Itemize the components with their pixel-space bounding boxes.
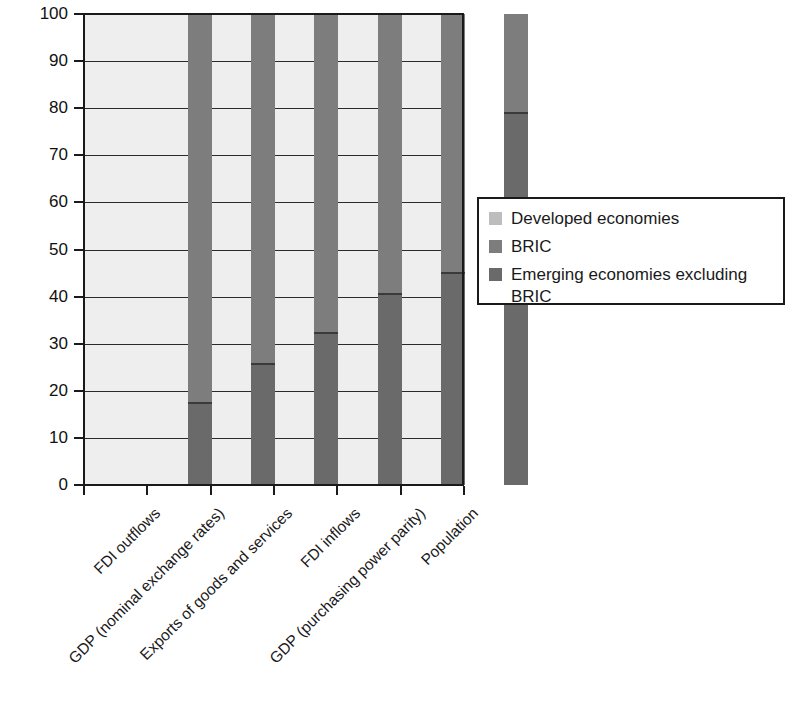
bar-segment-emerging	[251, 363, 275, 485]
legend-item-emerging-economies[interactable]: Emerging economies excluding BRIC	[489, 264, 773, 308]
legend-label-developed-economies: Developed economies	[511, 208, 679, 230]
x-axis-tick	[463, 486, 465, 495]
y-axis-tick	[74, 390, 83, 392]
y-axis-tick	[74, 107, 83, 109]
y-axis-tick-label: 100	[40, 5, 68, 22]
x-axis-label-gdp-purchasing-power-parity: GDP (purchasing power parity)	[267, 505, 429, 667]
bar-segment-bric	[188, 14, 212, 402]
y-axis-tick-label: 40	[49, 288, 68, 305]
gridline	[85, 250, 465, 251]
y-axis-tick	[74, 154, 83, 156]
bar-segment-emerging	[378, 293, 402, 485]
gridline	[85, 202, 465, 203]
gridline	[85, 155, 465, 156]
x-axis-label-population: Population	[418, 505, 481, 568]
bar-fdi-outflows[interactable]	[188, 14, 212, 485]
bar-gdp-nominal-exchange-rates[interactable]	[251, 14, 275, 485]
plot-area	[83, 14, 463, 485]
y-axis-tick-label: 90	[49, 52, 68, 69]
legend-item-bric[interactable]: BRIC	[489, 236, 773, 258]
y-axis-tick-label: 20	[49, 382, 68, 399]
y-axis-tick-label: 70	[49, 146, 68, 163]
chart-container: 0102030405060708090100 FDI outflowsGDP (…	[0, 0, 797, 701]
y-axis-tick	[74, 13, 83, 15]
x-axis-label-exports-of-goods-and-services: Exports of goods and services	[137, 505, 295, 663]
y-axis-tick	[74, 201, 83, 203]
bar-exports-of-goods-and-services[interactable]	[314, 14, 338, 485]
x-axis-tick	[146, 486, 148, 495]
plot-right-border	[462, 13, 464, 486]
legend-label-emerging-economies: Emerging economies excluding BRIC	[511, 264, 747, 308]
x-axis-label-fdi-outflows: FDI outflows	[91, 505, 163, 577]
x-axis-tick	[210, 486, 212, 495]
bar-segment-bric	[504, 14, 528, 112]
chart-legend: Developed economies BRIC Emerging econom…	[477, 197, 785, 305]
legend-item-developed-economies[interactable]: Developed economies	[489, 208, 773, 230]
gridline	[85, 61, 465, 62]
y-axis-tick	[74, 484, 83, 486]
y-axis-tick	[74, 343, 83, 345]
gridline	[85, 108, 465, 109]
x-axis-tick	[336, 486, 338, 495]
y-axis-tick	[74, 60, 83, 62]
legend-swatch-emerging-economies	[489, 268, 502, 281]
y-axis-tick	[74, 437, 83, 439]
x-axis-label-fdi-inflows: FDI inflows	[298, 505, 364, 571]
bar-segment-emerging	[188, 402, 212, 485]
y-axis-tick-label: 60	[49, 193, 68, 210]
x-axis-tick	[273, 486, 275, 495]
gridline	[85, 297, 465, 298]
y-axis-tick	[74, 249, 83, 251]
legend-swatch-developed-economies	[489, 212, 502, 225]
x-axis-tick	[83, 486, 85, 495]
bar-segment-bric	[251, 14, 275, 363]
x-axis-label-gdp-nominal-exchange-rates: GDP (nominal exchange rates)	[66, 505, 228, 667]
y-axis-tick-label: 50	[49, 241, 68, 258]
legend-label-line-1: Emerging economies excluding	[511, 265, 747, 284]
x-axis-tick	[400, 486, 402, 495]
plot-top-border	[83, 13, 464, 15]
legend-swatch-bric	[489, 240, 502, 253]
gridline	[85, 391, 465, 392]
legend-label-bric: BRIC	[511, 236, 552, 258]
legend-label-line-2: BRIC	[511, 286, 747, 308]
y-axis-tick-label: 30	[49, 335, 68, 352]
gridline	[85, 344, 465, 345]
y-axis-tick-label: 10	[49, 429, 68, 446]
gridline	[85, 438, 465, 439]
y-axis-tick-label: 80	[49, 99, 68, 116]
y-axis-tick	[74, 296, 83, 298]
bar-segment-bric	[378, 14, 402, 293]
bar-segment-bric	[314, 14, 338, 332]
bar-segment-emerging	[314, 332, 338, 485]
bar-fdi-inflows[interactable]	[378, 14, 402, 485]
y-axis-tick-label: 0	[59, 476, 68, 493]
